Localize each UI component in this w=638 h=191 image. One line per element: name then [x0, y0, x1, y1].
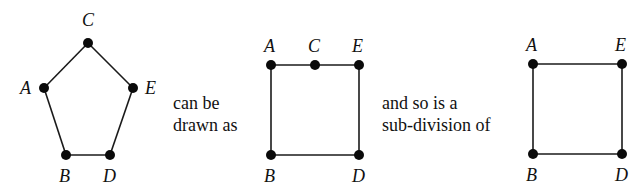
vertex-label-E: E: [351, 36, 363, 56]
edge-C-A: [44, 43, 88, 88]
vertex-label-C: C: [308, 36, 321, 56]
vertex-E: [617, 59, 627, 69]
vertex-E: [128, 83, 138, 93]
edge-D-E: [110, 88, 133, 155]
vertex-label-B: B: [59, 166, 70, 186]
graph-pentagon: CAEBD: [19, 10, 156, 186]
vertex-A: [39, 83, 49, 93]
graph-subdivided-square: ACEBD: [263, 36, 365, 186]
vertex-D: [617, 149, 627, 159]
vertex-A: [266, 60, 276, 70]
caption-drawn-as: drawn as: [173, 115, 237, 135]
edge-A-B: [44, 88, 66, 155]
vertex-C: [83, 38, 93, 48]
vertex-label-B: B: [526, 165, 537, 185]
caption-sub-division-of: sub-division of: [382, 115, 491, 135]
vertex-label-B: B: [264, 166, 275, 186]
vertex-label-A: A: [19, 78, 32, 98]
vertex-D: [354, 150, 364, 160]
vertex-label-C: C: [82, 10, 95, 30]
vertex-D: [105, 150, 115, 160]
vertex-label-A: A: [525, 35, 538, 55]
vertex-B: [61, 150, 71, 160]
caption-and-so-is-a: and so is a: [382, 93, 458, 113]
vertex-B: [266, 150, 276, 160]
graph-subdivision-diagram: CAEBDACEBDAEBD can be drawn as and so is…: [0, 0, 638, 191]
graphs-layer: CAEBDACEBDAEBD: [19, 10, 628, 186]
vertex-label-E: E: [144, 78, 156, 98]
vertex-A: [528, 59, 538, 69]
vertex-E: [354, 60, 364, 70]
vertex-B: [528, 149, 538, 159]
vertex-label-D: D: [614, 165, 628, 185]
edge-E-C: [88, 43, 133, 88]
vertex-label-A: A: [263, 36, 276, 56]
vertex-C: [310, 60, 320, 70]
vertex-label-D: D: [102, 166, 116, 186]
vertex-label-D: D: [351, 166, 365, 186]
vertex-label-E: E: [614, 35, 626, 55]
caption-can-be: can be: [173, 93, 219, 113]
graph-square: AEBD: [525, 35, 628, 185]
